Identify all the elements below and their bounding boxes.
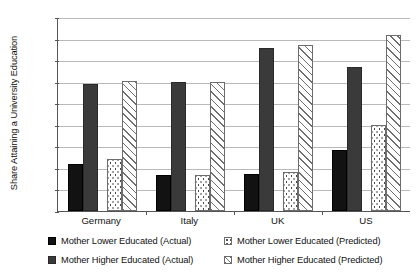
bar-us-pred-low	[371, 125, 386, 211]
legend-item-mother-higher-predicted: Mother Higher Educated (Predicted)	[224, 255, 408, 265]
bar-uk-actual-low	[244, 174, 259, 211]
bar-group-germany	[58, 18, 146, 211]
bar-italy-actual-high	[171, 82, 186, 211]
bar-group-italy	[146, 18, 234, 211]
bar-us-pred-high	[386, 35, 401, 211]
bar-italy-actual-low	[156, 175, 171, 211]
bar-group-us	[322, 18, 410, 211]
bar-uk-pred-low	[283, 172, 298, 211]
bar-germany-actual-low	[68, 164, 83, 211]
legend-item-mother-lower-predicted: Mother Lower Educated (Predicted)	[224, 236, 408, 246]
bar-germany-actual-high	[83, 84, 98, 211]
legend-row: Mother Lower Educated (Actual) Mother Lo…	[48, 231, 408, 250]
x-axis-label-us: US	[322, 215, 410, 229]
bar-italy-pred-high	[210, 82, 225, 211]
legend-item-label: Mother Higher Educated (Actual)	[61, 255, 193, 265]
bar-group-uk	[234, 18, 322, 211]
bar-germany-pred-high	[122, 81, 137, 211]
x-axis-labels: GermanyItalyUKUS	[57, 215, 410, 229]
x-axis-label-uk: UK	[234, 215, 322, 229]
bar-uk-actual-high	[259, 48, 274, 211]
legend-item-label: Mother Lower Educated (Actual)	[61, 236, 191, 246]
bar-groups	[58, 18, 410, 211]
legend-swatch-icon	[224, 237, 232, 245]
y-axis-title: Share Attaining a University Education	[9, 15, 19, 211]
legend-item-mother-lower-actual: Mother Lower Educated (Actual)	[48, 236, 224, 246]
legend: Mother Lower Educated (Actual) Mother Lo…	[48, 231, 408, 269]
x-axis-label-italy: Italy	[145, 215, 233, 229]
legend-item-label: Mother Lower Educated (Predicted)	[237, 236, 380, 246]
legend-swatch-icon	[48, 256, 56, 264]
legend-swatch-icon	[224, 256, 232, 264]
legend-item-mother-higher-actual: Mother Higher Educated (Actual)	[48, 255, 224, 265]
bar-chart: Share Attaining a University Education 0…	[0, 0, 417, 275]
x-axis-label-germany: Germany	[57, 215, 145, 229]
bar-us-actual-high	[347, 67, 362, 211]
bar-germany-pred-low	[107, 159, 122, 211]
bar-italy-pred-low	[195, 175, 210, 211]
bar-us-actual-low	[332, 150, 347, 211]
plot-area	[57, 18, 410, 212]
bar-uk-pred-high	[298, 45, 313, 211]
y-tick-mark	[55, 212, 59, 213]
legend-row: Mother Higher Educated (Actual) Mother H…	[48, 250, 408, 269]
legend-swatch-icon	[48, 237, 56, 245]
legend-item-label: Mother Higher Educated (Predicted)	[237, 255, 382, 265]
